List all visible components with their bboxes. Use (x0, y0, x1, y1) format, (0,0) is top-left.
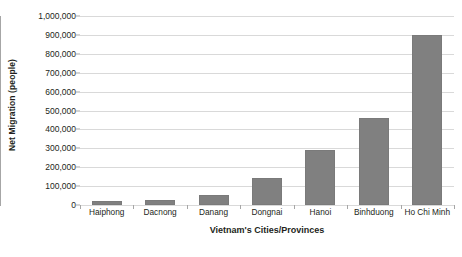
bar-slot (80, 16, 133, 205)
y-axis-tick-label: 1,000,000 (38, 11, 76, 21)
x-axis-tick-label: Dacnong (133, 207, 186, 217)
x-axis-tick-mark (133, 205, 134, 209)
y-axis-tick-label: 700,000 (45, 68, 76, 78)
y-axis-tick-mark (76, 53, 80, 54)
bar[interactable] (145, 200, 175, 205)
x-axis-tick-mark (187, 205, 188, 209)
x-axis-tick-label: Danang (187, 207, 240, 217)
y-axis-tick-label: 200,000 (45, 162, 76, 172)
y-axis-tick-mark (76, 167, 80, 168)
bar[interactable] (359, 118, 389, 205)
y-axis-line (0, 16, 1, 206)
y-axis-tick-labels: 0100,000200,000300,000400,000500,000600,… (22, 16, 76, 205)
y-axis-tick-mark (76, 186, 80, 187)
bar[interactable] (252, 178, 282, 205)
bar-slot (294, 16, 347, 205)
x-axis-tick-label: Ho Chi Minh (401, 207, 454, 217)
bar-slot (187, 16, 240, 205)
gridline (80, 205, 454, 206)
x-axis-tick-mark (401, 205, 402, 209)
x-axis-tick-mark (80, 205, 81, 209)
bar-slot (240, 16, 293, 205)
bar[interactable] (412, 35, 442, 205)
bar-slot (401, 16, 454, 205)
bar-chart: Net Migration (people) 0100,000200,00030… (0, 0, 462, 257)
x-axis-tick-labels: HaiphongDacnongDanangDongnaiHanoiBinhduo… (80, 207, 454, 217)
x-axis-tick-label: Haiphong (80, 207, 133, 217)
y-axis-title: Net Migration (people) (2, 0, 22, 210)
y-axis-tick-label: 800,000 (45, 49, 76, 59)
x-axis-tick-label: Hanoi (294, 207, 347, 217)
y-axis-tick-mark (76, 72, 80, 73)
y-axis-tick-label: 400,000 (45, 124, 76, 134)
y-axis-tick-label: 500,000 (45, 106, 76, 116)
y-axis-tick-mark (76, 148, 80, 149)
y-axis-tick-label: 300,000 (45, 143, 76, 153)
x-axis-tick-mark (347, 205, 348, 209)
bar-slot (133, 16, 186, 205)
y-axis-title-text: Net Migration (people) (7, 59, 17, 151)
x-axis-tick-mark (240, 205, 241, 209)
bar-series (80, 16, 454, 205)
x-axis-tick-mark (454, 205, 455, 209)
y-axis-tick-label: 600,000 (45, 87, 76, 97)
y-axis-tick-label: 900,000 (45, 30, 76, 40)
plot-area (80, 16, 454, 205)
y-axis-tick-mark (76, 110, 80, 111)
y-axis-tick-label: 100,000 (45, 181, 76, 191)
y-axis-tick-mark (76, 129, 80, 130)
bar[interactable] (305, 150, 335, 205)
bar-slot (347, 16, 400, 205)
x-axis-title: Vietnam's Cities/Provinces (80, 225, 454, 235)
bar[interactable] (199, 195, 229, 205)
x-axis-tick-label: Dongnai (240, 207, 293, 217)
x-axis-tick-label: Binhduong (347, 207, 400, 217)
y-axis-tick-mark (76, 91, 80, 92)
y-axis-tick-mark (76, 16, 80, 17)
bar[interactable] (92, 201, 122, 205)
y-axis-tick-mark (76, 34, 80, 35)
x-axis-tick-mark (294, 205, 295, 209)
